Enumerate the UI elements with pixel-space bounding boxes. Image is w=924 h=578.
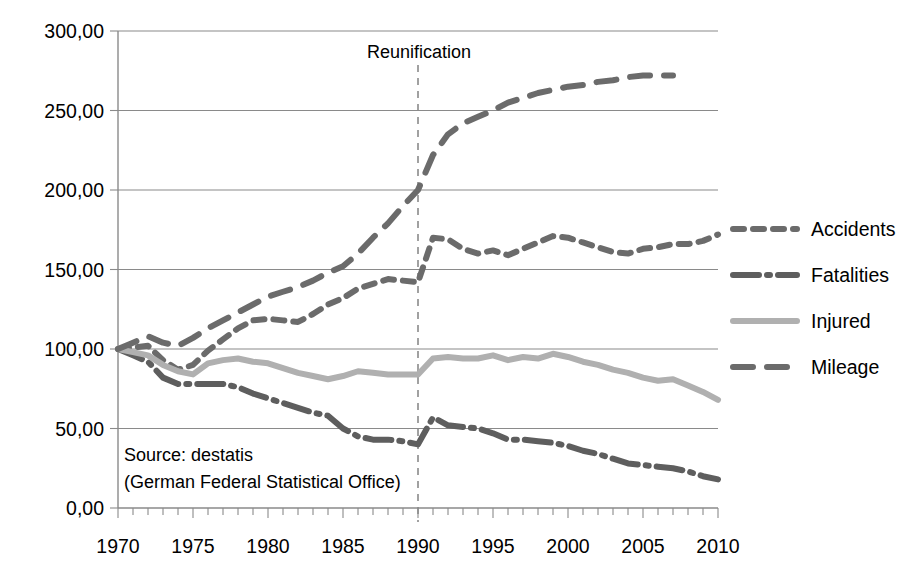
annotations: ReunificationSource: destatis(German Fed… (124, 42, 471, 492)
y-axis-label-200: 200,00 (44, 179, 104, 201)
series-line-mileage (118, 76, 673, 349)
y-axis-label-250: 250,00 (44, 100, 104, 122)
x-axis-label-1995: 1995 (471, 535, 515, 557)
legend-item-mileage: Mileage (733, 356, 879, 378)
chart-root: 0,0050,00100,00150,00200,00250,00300,00 … (0, 0, 924, 578)
legend: AccidentsFatalitiesInjuredMileage (733, 218, 896, 378)
legend-item-fatalities: Fatalities (733, 264, 889, 286)
legend-item-injured: Injured (733, 310, 871, 332)
y-axis-label-300: 300,00 (44, 20, 104, 42)
x-axis-label-1970: 1970 (96, 535, 140, 557)
legend-label-mileage: Mileage (811, 356, 879, 378)
legend-label-accidents: Accidents (811, 218, 896, 240)
legend-label-injured: Injured (811, 310, 871, 332)
x-axis-label-1990: 1990 (396, 535, 440, 557)
reunification-label: Reunification (367, 42, 471, 62)
legend-label-fatalities: Fatalities (811, 264, 889, 286)
source-line-1: Source: destatis (124, 445, 253, 465)
x-axis-tick-labels: 197019751980198519901995200020052010 (96, 535, 740, 557)
y-axis-tick-labels: 0,0050,00100,00150,00200,00250,00300,00 (44, 20, 104, 519)
x-axis-label-1980: 1980 (246, 535, 290, 557)
legend-item-accidents: Accidents (733, 218, 896, 240)
line-chart: 0,0050,00100,00150,00200,00250,00300,00 … (0, 0, 924, 578)
y-axis-label-100: 100,00 (44, 338, 104, 360)
y-axis-label-0: 0,00 (66, 497, 104, 519)
y-axis-label-50: 50,00 (55, 418, 104, 440)
x-axis-label-1975: 1975 (171, 535, 215, 557)
x-axis-label-2005: 2005 (621, 535, 665, 557)
source-line-2: (German Federal Statistical Office) (124, 472, 401, 492)
x-axis-label-2000: 2000 (546, 535, 590, 557)
x-axis-label-1985: 1985 (321, 535, 365, 557)
x-axis-label-2010: 2010 (696, 535, 740, 557)
y-axis-label-150: 150,00 (44, 259, 104, 281)
